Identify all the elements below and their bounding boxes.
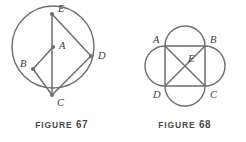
figure-67-panel: EABCD FIGURE 67	[0, 0, 123, 142]
figure-67-point-label-C: C	[57, 97, 65, 108]
figure-67-vertex-dot-A	[51, 45, 55, 49]
figure-67-segment-BC	[33, 69, 52, 95]
figure-67-caption-word: FIGURE	[35, 120, 73, 130]
figure-67-segment-DC	[52, 56, 91, 95]
figure-67-vertex-dot-B	[31, 67, 35, 71]
figure-68-point-label-E: E	[187, 53, 195, 64]
figures-page: EABCD FIGURE 67 ABCDE FIGURE 68	[0, 0, 246, 142]
figure-67-vertex-dot-E	[50, 12, 54, 16]
figure-67-caption-number: 67	[76, 119, 88, 130]
figure-68-caption-word: FIGURE	[158, 120, 196, 130]
figure-67-point-label-B: B	[20, 58, 27, 69]
figure-67-caption: FIGURE 67	[0, 119, 123, 131]
figure-68-panel: ABCDE FIGURE 68	[123, 0, 246, 142]
figure-68-point-label-A: A	[152, 34, 160, 45]
figure-68-semicircle-left	[145, 46, 165, 86]
figure-67-vertex-dot-D	[89, 54, 93, 58]
figure-68-point-label-B: B	[210, 34, 217, 45]
figure-68-semicircle-bottom	[165, 86, 205, 106]
figure-67-drawing: EABCD	[0, 0, 123, 115]
figure-68-point-label-D: D	[152, 89, 161, 100]
figure-68-point-label-C: C	[210, 89, 218, 100]
figure-67-point-label-E: E	[57, 3, 65, 14]
figure-67-point-label-D: D	[97, 50, 106, 61]
figure-67-point-label-A: A	[58, 40, 66, 51]
figure-68-caption-number: 68	[199, 119, 211, 130]
figure-68-semicircle-right	[205, 46, 225, 86]
figure-68-semicircle-top	[165, 26, 205, 46]
figure-67-vertex-dot-C	[50, 93, 54, 97]
figure-68-drawing: ABCDE	[123, 0, 246, 115]
figure-67-segment-AB	[33, 47, 53, 69]
figure-68-caption: FIGURE 68	[123, 119, 246, 131]
figure-67-segment-ED	[52, 14, 91, 56]
